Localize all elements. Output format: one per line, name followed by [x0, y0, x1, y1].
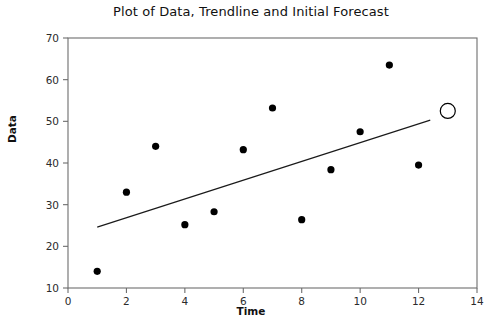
y-tick-label: 30 — [46, 199, 59, 211]
x-tick-label: 2 — [123, 295, 130, 307]
y-axis-ticks: 10203040506070 — [46, 32, 68, 294]
data-point — [123, 189, 130, 196]
x-tick-label: 10 — [353, 295, 366, 307]
x-tick-label: 4 — [182, 295, 189, 307]
data-point — [269, 104, 276, 111]
data-point — [298, 216, 305, 223]
data-point — [94, 268, 101, 275]
plot-area: 10203040506070 02468101214 — [0, 0, 502, 325]
data-points — [94, 61, 456, 274]
x-tick-label: 8 — [298, 295, 305, 307]
x-tick-label: 6 — [240, 295, 247, 307]
y-tick-label: 20 — [46, 240, 59, 252]
trendline-segment — [97, 120, 430, 227]
data-point — [181, 221, 188, 228]
data-point — [415, 161, 422, 168]
y-tick-label: 70 — [46, 32, 59, 44]
x-tick-label: 12 — [412, 295, 425, 307]
data-point — [210, 208, 217, 215]
forecast-marker — [440, 103, 455, 118]
data-point — [327, 166, 334, 173]
x-tick-label: 14 — [470, 295, 484, 307]
data-point — [357, 128, 364, 135]
y-tick-label: 60 — [46, 74, 59, 86]
chart-container: Plot of Data, Trendline and Initial Fore… — [0, 0, 502, 325]
x-tick-label: 0 — [65, 295, 72, 307]
data-point — [386, 61, 393, 68]
y-tick-label: 10 — [46, 282, 59, 294]
data-point — [152, 143, 159, 150]
y-tick-label: 50 — [46, 115, 59, 127]
x-axis-ticks: 02468101214 — [65, 288, 484, 307]
trendline — [97, 120, 430, 227]
y-tick-label: 40 — [46, 157, 59, 169]
data-point — [240, 146, 247, 153]
